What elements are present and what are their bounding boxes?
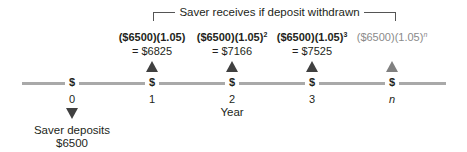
arrow-down-icon <box>66 108 78 119</box>
bracket-label: Saver receives if deposit withdrawn <box>175 6 363 18</box>
arrow-up-icon <box>226 61 238 72</box>
period-label-0: 0 <box>62 93 82 106</box>
period-label-3: 3 <box>302 93 322 106</box>
formula-expr: ($6500)(1.05) <box>277 31 344 43</box>
period-label-2: 2 <box>222 93 242 106</box>
cash-marker-3: $ <box>305 76 319 89</box>
formula-result: = $7525 <box>262 44 362 58</box>
period-label-n: n <box>382 93 402 106</box>
cash-marker-n: $ <box>385 76 399 89</box>
bracket-label-container: Saver receives if deposit withdrawn <box>0 5 467 19</box>
formula-expr: ($6500)(1.05) <box>197 31 264 43</box>
cash-marker-0: $ <box>65 76 79 89</box>
withdrawal-formula-n: ($6500)(1.05)n <box>342 30 442 44</box>
formula-exponent: n <box>423 31 427 38</box>
arrow-up-icon <box>146 61 158 72</box>
arrow-up-icon <box>306 61 318 72</box>
deposit-annotation: Saver deposits $6500 <box>12 124 132 150</box>
formula-expr: ($6500)(1.05) <box>119 31 186 43</box>
formula-expr: ($6500)(1.05) <box>357 31 424 43</box>
period-label-1: 1 <box>142 93 162 106</box>
arrow-up-icon <box>386 61 398 72</box>
deposit-label: Saver deposits <box>12 124 132 137</box>
cash-marker-2: $ <box>225 76 239 89</box>
axis-label-year: Year <box>212 106 252 118</box>
deposit-amount: $6500 <box>12 137 132 150</box>
cash-marker-1: $ <box>145 76 159 89</box>
